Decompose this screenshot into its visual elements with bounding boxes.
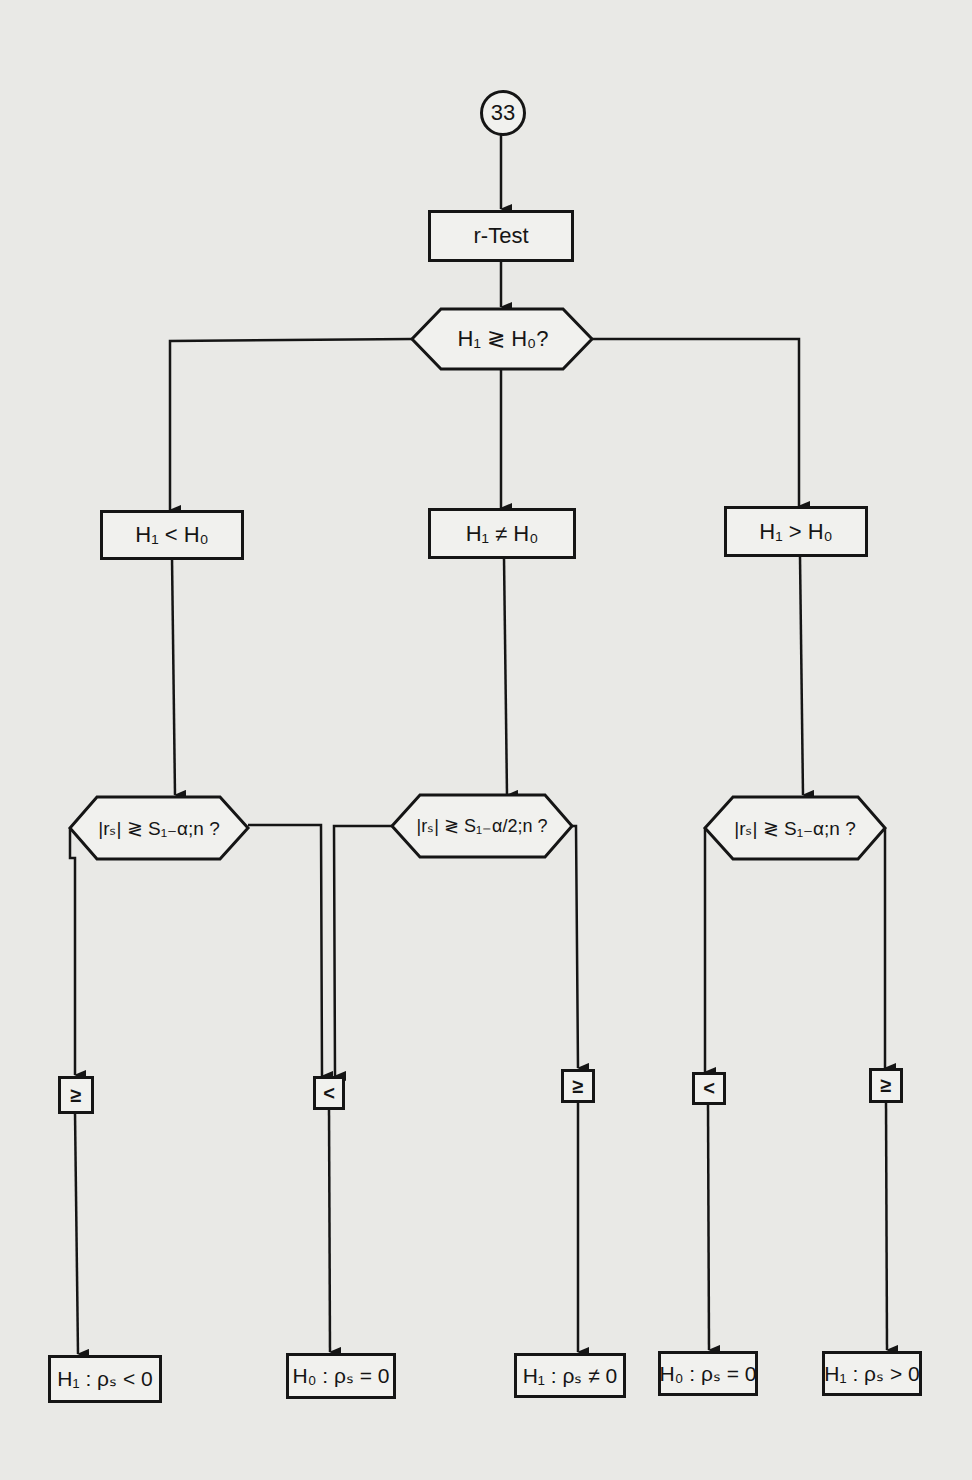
branch-less-label: H₁ < H₀ bbox=[135, 522, 208, 548]
branch-greater: H₁ > H₀ bbox=[724, 506, 868, 557]
condition-label: ≥ bbox=[573, 1075, 584, 1098]
decision-middle-label: |rₛ| ≷ S₁₋α/2;n ? bbox=[417, 815, 548, 837]
connector-33: 33 bbox=[480, 90, 526, 136]
condition-middle-lt: < bbox=[313, 1076, 345, 1110]
condition-label: < bbox=[703, 1077, 715, 1100]
result-label: H₀ : ρₛ = 0 bbox=[293, 1364, 390, 1388]
branch-less: H₁ < H₀ bbox=[100, 510, 244, 560]
decision-main: H₁ ≷ H₀? bbox=[420, 318, 586, 360]
decision-left: |rₛ| ≷ S₁₋α;n ? bbox=[76, 808, 242, 848]
result-h0-zero-right: H₀ : ρₛ = 0 bbox=[658, 1351, 758, 1396]
branch-not-equal: H₁ ≠ H₀ bbox=[428, 508, 576, 559]
result-label: H₁ : ρₛ > 0 bbox=[824, 1362, 919, 1386]
condition-right-lt: < bbox=[692, 1072, 726, 1105]
condition-label: < bbox=[323, 1082, 335, 1105]
condition-middle-ge: ≥ bbox=[561, 1069, 595, 1103]
decision-main-label: H₁ ≷ H₀? bbox=[458, 326, 549, 352]
decision-left-label: |rₛ| ≷ S₁₋α;n ? bbox=[98, 817, 220, 840]
result-label: H₀ : ρₛ = 0 bbox=[660, 1362, 757, 1386]
branch-not-equal-label: H₁ ≠ H₀ bbox=[466, 521, 539, 547]
result-h1-not-zero: H₁ : ρₛ ≠ 0 bbox=[514, 1353, 626, 1398]
condition-left-ge: ≥ bbox=[58, 1076, 94, 1114]
connector-label: 33 bbox=[491, 100, 515, 126]
condition-right-ge: ≥ bbox=[869, 1068, 903, 1103]
condition-label: ≥ bbox=[881, 1074, 892, 1097]
branch-greater-label: H₁ > H₀ bbox=[759, 519, 832, 545]
decision-right-label: |rₛ| ≷ S₁₋α;n ? bbox=[734, 817, 856, 840]
start-box-r-test: r-Test bbox=[428, 210, 574, 262]
result-label: H₁ : ρₛ < 0 bbox=[57, 1367, 152, 1391]
result-h1-positive: H₁ : ρₛ > 0 bbox=[822, 1351, 922, 1396]
condition-label: ≥ bbox=[71, 1084, 82, 1107]
result-label: H₁ : ρₛ ≠ 0 bbox=[523, 1364, 618, 1388]
result-h1-negative: H₁ : ρₛ < 0 bbox=[48, 1355, 162, 1403]
start-label: r-Test bbox=[474, 223, 529, 249]
decision-middle: |rₛ| ≷ S₁₋α/2;n ? bbox=[396, 806, 568, 846]
decision-right: |rₛ| ≷ S₁₋α;n ? bbox=[711, 808, 879, 848]
result-h0-zero-left: H₀ : ρₛ = 0 bbox=[286, 1353, 396, 1399]
